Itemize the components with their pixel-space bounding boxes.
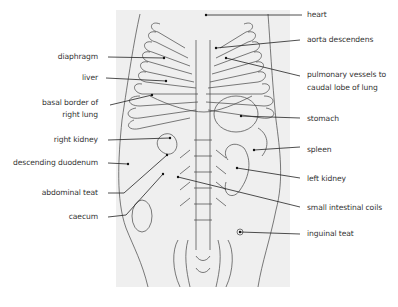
label-diaphragm: diaphragm (58, 52, 98, 62)
label-right-kidney: right kidney (54, 135, 98, 145)
anatomy-drawing (0, 0, 398, 307)
label-pulmonary-vessels-line1: pulmonary vessels to (307, 70, 386, 80)
label-inguinal-teat: inguinal teat (307, 229, 354, 239)
label-small-intestinal-coils: small intestinal coils (307, 203, 382, 213)
spine (180, 40, 226, 250)
label-left-kidney: left kidney (307, 174, 346, 184)
ribs-left (128, 23, 198, 129)
label-spleen: spleen (307, 145, 331, 155)
label-aorta-descendens: aorta descendens (307, 35, 373, 45)
leader-dots (127, 14, 255, 233)
label-caecum: caecum (69, 212, 98, 222)
label-pulmonary-vessels-line2: caudal lobe of lung (307, 83, 378, 93)
label-abdominal-teat: abdominal teat (42, 188, 98, 198)
ribs-right (206, 23, 274, 118)
label-liver: liver (82, 73, 98, 83)
leader-lines (106, 15, 302, 234)
left-kidney-shape (225, 144, 249, 195)
label-descending-duodenum: descending duodenum (13, 158, 98, 168)
label-heart: heart (307, 10, 327, 20)
body-outline (119, 14, 281, 287)
label-basal-border-line1: basal border of (42, 98, 98, 108)
label-basal-border-line2: right lung (62, 110, 98, 120)
right-kidney-shape (157, 134, 177, 154)
pelvis (174, 240, 233, 287)
spleen-shape (258, 128, 267, 156)
label-stomach: stomach (307, 114, 339, 124)
